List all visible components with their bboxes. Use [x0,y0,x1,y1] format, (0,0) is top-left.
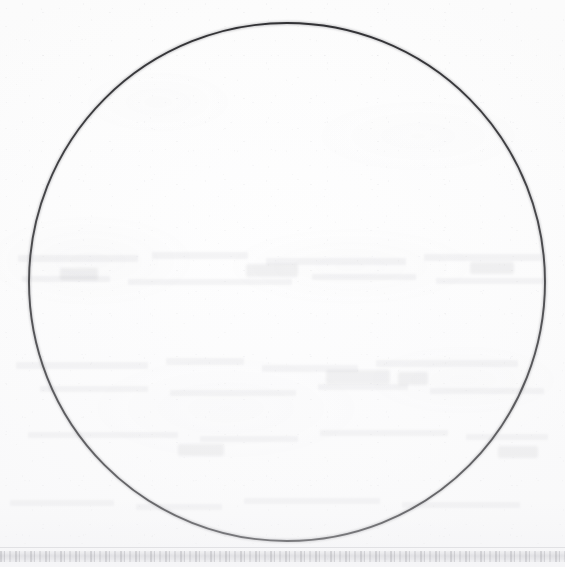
scanned-page [0,0,565,567]
circle-ink-halo [29,23,545,541]
circle-outline [29,23,545,541]
circle-figure [0,0,565,567]
